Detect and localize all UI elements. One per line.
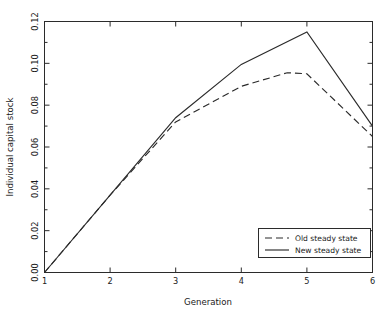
y-axis-tick-labels: 0.000.020.040.060.080.100.12 xyxy=(30,12,40,281)
y-tick-label: 0.10 xyxy=(30,54,40,72)
chart-legend: Old steady state New steady state xyxy=(259,229,371,258)
legend-label-new-steady-state: New steady state xyxy=(295,246,362,255)
y-axis-title: Individual capital stock xyxy=(5,97,15,196)
x-tick-label: 3 xyxy=(173,276,178,286)
x-tick-label: 5 xyxy=(304,276,309,286)
x-tick-label: 1 xyxy=(42,276,47,286)
x-axis-tick-labels: 123456 xyxy=(42,276,375,286)
y-tick-label: 0.12 xyxy=(30,12,40,30)
x-tick-label: 4 xyxy=(239,276,244,286)
legend-label-old-steady-state: Old steady state xyxy=(295,234,358,243)
y-tick-label: 0.08 xyxy=(30,96,40,114)
y-tick-label: 0.04 xyxy=(30,180,40,198)
y-tick-label: 0.06 xyxy=(30,138,40,156)
x-axis-title: Generation xyxy=(184,297,232,307)
y-tick-label: 0.02 xyxy=(30,222,40,240)
x-tick-label: 2 xyxy=(107,276,112,286)
x-tick-label: 6 xyxy=(370,276,375,286)
line-chart: 0.000.020.040.060.080.100.12 123456 Gene… xyxy=(0,0,391,313)
chart-figure: 0.000.020.040.060.080.100.12 123456 Gene… xyxy=(0,0,391,313)
y-tick-label: 0.00 xyxy=(30,263,40,281)
